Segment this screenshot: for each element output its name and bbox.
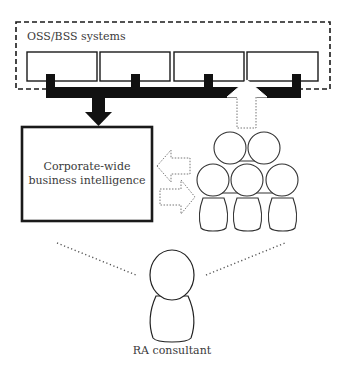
consultant-figure [150,250,194,342]
person-head-mid-3 [266,164,298,196]
person-body-1 [199,198,227,231]
person-head-top-2 [248,132,280,164]
consultant-link-right [206,243,285,275]
person-head-mid-2 [231,164,263,196]
bi-label-line-2: business intelligence [28,174,145,188]
consultant-head [150,250,194,300]
system-box-1 [27,52,97,81]
system-box-4 [247,52,318,81]
person-head-top-1 [214,132,246,164]
down-arrow-stem [92,98,105,113]
diagram-canvas: OSS/BSS systems Corporate-wide business … [0,0,349,375]
bi-label: Corporate-wide business intelligence [22,127,152,221]
person-head-mid-1 [197,164,229,196]
consultant-label: RA consultant [122,344,222,357]
person-body-3 [268,198,296,231]
left-arrow-icon [157,150,190,182]
oss-bss-label: OSS/BSS systems [27,30,126,43]
team-group [197,132,298,231]
right-arrow-icon [160,180,195,214]
down-arrow-head-icon [85,112,112,126]
person-body-2 [233,198,261,231]
consultant-link-left [57,243,136,275]
data-bus [46,74,301,126]
system-boxes [27,52,318,81]
bi-label-line-1: Corporate-wide [44,160,131,174]
consultant-body [150,296,194,342]
